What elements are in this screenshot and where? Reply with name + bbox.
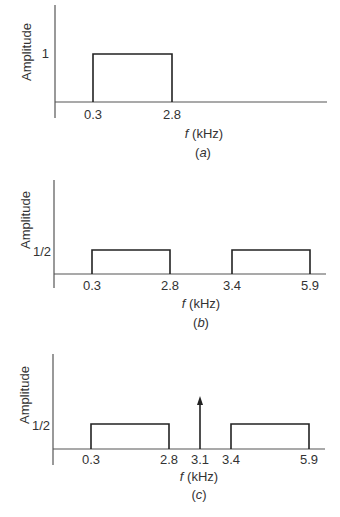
y-tick-label: 1/2: [33, 244, 51, 259]
panel-caption: (b): [193, 315, 209, 330]
x-axis-unit: (kHz): [188, 126, 223, 141]
y-axis-label: Amplitude: [19, 23, 34, 81]
x-tick-label: 5.9: [300, 452, 318, 467]
band-0.3-2.8: [93, 54, 172, 102]
band-0.3-2.8: [91, 424, 169, 449]
x-tick-label: 3.1: [191, 452, 209, 467]
y-axis-label: Amplitude: [17, 366, 32, 424]
x-axis-label: f (kHz): [182, 296, 220, 311]
panel-a: Amplitude 1 0.3 2.8 f (kHz) (a): [19, 5, 327, 160]
x-axis-unit: (kHz): [185, 296, 220, 311]
x-tick-label: 3.4: [223, 278, 241, 293]
panel-c: Amplitude 1/2 0.3 2.8 3.1 3.4 5.9 f (kHz…: [17, 354, 325, 502]
spectrum-figure: Amplitude 1 0.3 2.8 f (kHz) (a) Amplitud…: [0, 0, 340, 517]
y-tick-label: 1/2: [32, 418, 50, 433]
x-tick-label: 0.3: [83, 278, 101, 293]
x-tick-label: 2.8: [160, 452, 178, 467]
x-tick-label: 0.3: [82, 452, 100, 467]
band-3.4-5.9: [231, 424, 309, 449]
carrier-impulse-arrow-icon: [197, 396, 203, 449]
x-axis-label: f (kHz): [185, 126, 223, 141]
x-axis-unit: (kHz): [183, 469, 218, 484]
panel-caption: (a): [195, 145, 211, 160]
panel-caption: (c): [191, 487, 206, 502]
band-0.3-2.8: [92, 250, 170, 274]
x-axis-label: f (kHz): [180, 469, 218, 484]
panel-b: Amplitude 1/2 0.3 2.8 3.4 5.9 f (kHz) (b…: [18, 180, 326, 330]
x-tick-label: 3.4: [222, 452, 240, 467]
y-tick-label: 1: [42, 46, 49, 61]
y-axis-label: Amplitude: [18, 191, 33, 249]
x-tick-label: 2.8: [163, 107, 181, 122]
x-tick-label: 2.8: [161, 278, 179, 293]
x-tick-label: 0.3: [84, 107, 102, 122]
x-tick-label: 5.9: [301, 278, 319, 293]
band-3.4-5.9: [232, 250, 310, 274]
